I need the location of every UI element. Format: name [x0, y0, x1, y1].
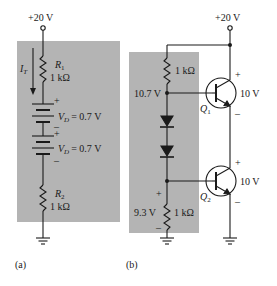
diode2-plus: +	[54, 128, 60, 139]
r2-value: 1 kΩ	[50, 201, 70, 212]
diode2-minus: –	[53, 155, 60, 166]
r1-value: 1 kΩ	[50, 72, 70, 83]
diode1-plus: +	[54, 95, 60, 106]
node-bottom-voltage: 9.3 V	[134, 207, 157, 218]
ground-icon-b-right	[223, 238, 237, 244]
q1-plus: +	[235, 69, 241, 80]
q2-minus: –	[234, 196, 241, 207]
r-bottom-minus: –	[155, 222, 162, 233]
supply-label-b: +20 V	[215, 12, 241, 23]
supply-label-a: +20 V	[28, 12, 54, 23]
junction-dot	[165, 91, 169, 95]
junction-dot	[165, 179, 169, 183]
r-bottom-plus: +	[156, 188, 162, 199]
r-top-value: 1 kΩ	[175, 65, 195, 76]
ground-icon-b-left	[160, 238, 174, 244]
panel-b-background	[129, 52, 199, 233]
node-top-voltage: 10.7 V	[134, 88, 162, 99]
junction-dot	[228, 43, 232, 47]
q1-name: Q1	[200, 103, 211, 116]
ground-icon-a	[36, 238, 50, 244]
figure-label-b: (b)	[126, 259, 138, 271]
supply-terminal-b	[228, 26, 232, 30]
q2-plus: +	[235, 157, 241, 168]
figure-label-a: (a)	[15, 259, 26, 271]
supply-terminal-a	[41, 26, 45, 30]
r-bottom-value: 1 kΩ	[174, 207, 194, 218]
q2-name: Q2	[200, 191, 211, 204]
q2-vce: 10 V	[240, 176, 260, 187]
q1-vce: 10 V	[240, 88, 260, 99]
q1-minus: –	[234, 108, 241, 119]
circuit-diagram: +20 V IT R1 1 kΩ + VD= 0.7 V – + VD= 0.7…	[0, 0, 277, 286]
